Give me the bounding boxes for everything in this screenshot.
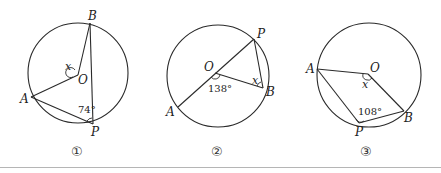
figure-3-segment-ao <box>317 69 368 74</box>
figure-1-label-p: P <box>90 125 100 139</box>
figure-1: B O A P x 74° ① <box>19 9 128 159</box>
figure-3-label-a: A <box>305 62 315 76</box>
figure-1-label-angle: 74° <box>78 104 96 115</box>
figure-3: A O P B x 108° ③ <box>305 23 421 159</box>
figure-1-segment-ob <box>78 23 90 75</box>
figure-3-number: ③ <box>360 144 372 159</box>
figure-1-number: ① <box>71 144 83 159</box>
figure-2-number: ② <box>211 144 223 159</box>
figure-3-label-angle: 108° <box>358 106 382 117</box>
figure-3-label-x: x <box>362 78 369 91</box>
figure-1-label-o: O <box>78 73 88 87</box>
figure-3-label-b: B <box>403 111 413 125</box>
figure-3-label-o: O <box>370 61 380 75</box>
figure-2-label-o: O <box>204 60 214 74</box>
figure-3-segment-ap <box>317 69 359 123</box>
figure-3-label-p: P <box>354 125 364 139</box>
figure-1-segment-oa <box>31 75 78 97</box>
figure-1-angle-74-arc <box>87 118 92 121</box>
figure-2-label-angle: 138° <box>208 83 232 94</box>
figure-2: P O A B x 138° ② <box>165 25 275 159</box>
figure-2-label-a: A <box>165 105 175 119</box>
figure-2-label-x: x <box>252 74 259 87</box>
figure-3-angle-108-arc <box>356 119 364 122</box>
figure-2-label-p: P <box>256 27 266 41</box>
figure-1-label-x: x <box>65 60 72 73</box>
figure-2-label-b: B <box>265 85 275 99</box>
figure-1-label-b: B <box>87 9 97 23</box>
figure-1-label-a: A <box>19 92 29 106</box>
circle-angle-figures: B O A P x 74° ① P O A B x 138° ② A O P B… <box>0 0 441 173</box>
